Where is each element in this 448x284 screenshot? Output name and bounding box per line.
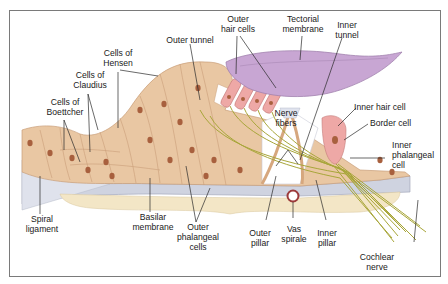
label-cells-of-claudius: Cells of Claudius — [70, 70, 110, 90]
label-inner-phalangeal-cell: Inner phalangeal cell — [392, 140, 442, 170]
label-outer-tunnel: Outer tunnel — [160, 35, 220, 45]
label-basilar-membrane: Basilar membrane — [130, 212, 176, 232]
vas-spirale-vessel — [288, 191, 299, 202]
label-inner-hair-cell: Inner hair cell — [354, 102, 434, 112]
label-outer-phalangeal-cells: Outer phalangeal cells — [176, 222, 220, 252]
organ-of-corti-illustration — [0, 0, 448, 284]
label-cells-of-hensen: Cells of Hensen — [98, 48, 138, 68]
label-cochlear-nerve: Cochlear nerve — [356, 252, 398, 272]
label-vas-spirale: Vas spirale — [278, 224, 310, 244]
label-inner-pillar: Inner pillar — [312, 228, 342, 248]
label-outer-hair-cells: Outer hair cells — [212, 14, 264, 34]
label-nerve-fibers: Nerve fibers — [268, 108, 304, 128]
label-outer-pillar: Outer pillar — [244, 228, 276, 248]
tectorial-membrane-shape — [226, 51, 402, 97]
label-tectorial-membrane: Tectorial membrane — [278, 14, 328, 34]
label-border-cell: Border cell — [370, 118, 440, 128]
label-spiral-ligament: Spiral ligament — [22, 214, 62, 234]
label-inner-tunnel: Inner tunnel — [330, 20, 364, 40]
label-cells-of-boettcher: Cells of Boettcher — [44, 97, 86, 117]
